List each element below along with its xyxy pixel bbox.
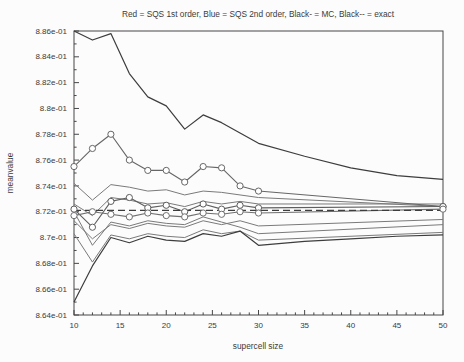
chart-canvas: Red = SQS 1st order, Blue = SQS 2nd orde…: [0, 0, 464, 362]
series-marker-sqs2-mean: [163, 202, 169, 208]
series-marker-sqs2-mean: [89, 224, 95, 230]
x-tick-label: 50: [439, 321, 448, 330]
x-tick-label: 35: [300, 321, 309, 330]
series-marker-sqs2-mean-2: [145, 210, 151, 216]
series-marker-sqs1-mean: [145, 167, 151, 173]
x-tick-label: 30: [254, 321, 263, 330]
series-marker-sqs1-mean: [219, 165, 225, 171]
y-tick-label: 8.64e-01: [35, 311, 67, 320]
series-marker-sqs2-mean-2: [200, 210, 206, 216]
y-tick-label: 8.74e-01: [35, 182, 67, 191]
series-line-mc-lower: [74, 231, 443, 302]
series-marker-sqs2-mean-2: [237, 209, 243, 215]
series-markers: [71, 131, 446, 230]
x-tick-label: 45: [392, 321, 401, 330]
series-marker-sqs2-mean-2: [71, 213, 77, 219]
series-marker-sqs1-mean: [237, 183, 243, 189]
series-marker-sqs2-mean: [237, 202, 243, 208]
series-marker-sqs2-mean: [126, 194, 132, 200]
series-marker-sqs1-mean: [163, 167, 169, 173]
series-marker-sqs2-mean-2: [255, 210, 261, 216]
series-marker-sqs1-mean: [200, 163, 206, 169]
x-tick-label: 20: [162, 321, 171, 330]
y-tick-label: 8.84e-01: [35, 52, 67, 61]
tick-labels: 1015202530354045508.86e-018.84e-018.82e-…: [35, 27, 448, 330]
y-tick-label: 8.76e-01: [35, 156, 67, 165]
series-marker-sqs2-mean: [200, 201, 206, 207]
figure-window: Red = SQS 1st order, Blue = SQS 2nd orde…: [0, 0, 464, 362]
x-tick-label: 10: [70, 321, 79, 330]
y-tick-label: 8.66e-01: [35, 285, 67, 294]
series-marker-sqs1-mean: [71, 163, 77, 169]
y-tick-label: 8.68e-01: [35, 259, 67, 268]
series-marker-sqs2-mean-2: [219, 211, 225, 217]
series-marker-sqs1-mean: [89, 145, 95, 151]
series-lines: [74, 31, 443, 302]
x-tick-label: 40: [346, 321, 355, 330]
x-tick-label: 25: [208, 321, 217, 330]
chart-title: Red = SQS 1st order, Blue = SQS 2nd orde…: [122, 9, 395, 19]
y-tick-label: 8.78e-01: [35, 130, 67, 139]
x-tick-label: 15: [116, 321, 125, 330]
y-tick-label: 8.7e-01: [40, 233, 68, 242]
y-tick-label: 8.72e-01: [35, 207, 67, 216]
series-marker-sqs2-mean-2: [89, 209, 95, 215]
y-tick-label: 8.8e-01: [40, 104, 68, 113]
series-marker-sqs1-mean: [126, 157, 132, 163]
series-marker-sqs1-mean: [255, 188, 261, 194]
series-marker-sqs2-mean: [108, 198, 114, 204]
y-tick-label: 8.86e-01: [35, 27, 67, 36]
series-line-mc-lower-companion: [74, 230, 443, 262]
series-marker-sqs2-mean-2: [108, 211, 114, 217]
series-marker-sqs2-mean-2: [163, 213, 169, 219]
x-axis-label: supercell size: [233, 341, 284, 351]
y-tick-label: 8.82e-01: [35, 78, 67, 87]
series-marker-sqs2-mean-2: [126, 214, 132, 220]
series-marker-sqs2-mean-2: [182, 214, 188, 220]
y-axis-label: meanvalue: [5, 152, 15, 193]
series-line-sqs2-lower-bound: [74, 219, 443, 238]
series-marker-sqs2-mean: [71, 206, 77, 212]
series-marker-sqs2-mean-2: [440, 206, 446, 212]
series-marker-sqs1-mean: [182, 179, 188, 185]
series-marker-sqs1-mean: [108, 131, 114, 137]
